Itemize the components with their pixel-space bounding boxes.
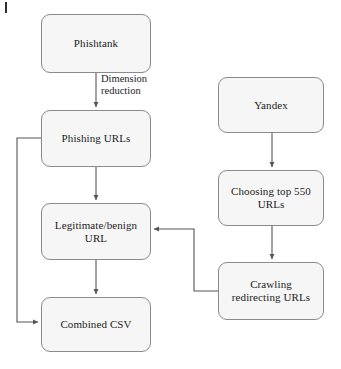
node-yandex-label: Yandex	[254, 99, 288, 112]
node-phishing-urls-label: Phishing URLs	[62, 132, 131, 145]
node-combined-csv-label: Combined CSV	[60, 318, 131, 331]
node-yandex[interactable]: Yandex	[218, 77, 324, 133]
node-legitimate-benign-url-label: Legitimate/benign URL	[55, 219, 137, 245]
edge-phishing-urls-to-combined-csv	[17, 138, 41, 322]
edge-label-dimension-reduction: Dimension reduction	[101, 73, 147, 97]
node-crawling-redirecting-urls-label: Crawling redirecting URLs	[232, 278, 310, 304]
node-phishtank[interactable]: Phishtank	[41, 14, 151, 73]
node-phishing-urls[interactable]: Phishing URLs	[41, 110, 151, 167]
flowchart-diagram: Phishtank Phishing URLs Legitimate/benig…	[0, 0, 341, 369]
node-choosing-top-550-urls-label: Choosing top 550 URLs	[231, 185, 311, 211]
edge-crawling-to-legitimate-url	[154, 229, 218, 291]
node-legitimate-benign-url[interactable]: Legitimate/benign URL	[41, 203, 151, 260]
node-combined-csv[interactable]: Combined CSV	[41, 297, 151, 352]
node-choosing-top-550-urls[interactable]: Choosing top 550 URLs	[218, 170, 324, 226]
node-phishtank-label: Phishtank	[74, 37, 118, 50]
node-crawling-redirecting-urls[interactable]: Crawling redirecting URLs	[218, 262, 324, 320]
